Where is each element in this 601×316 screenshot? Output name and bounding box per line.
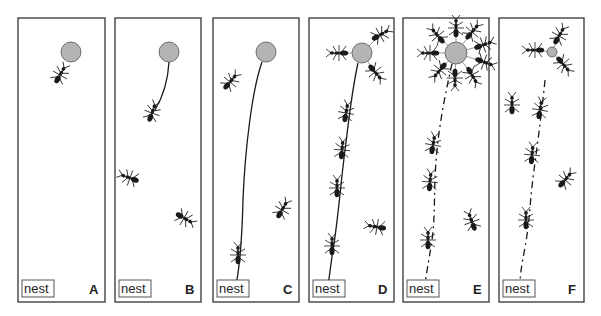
pheromone-trail [155, 62, 169, 110]
ant-icon [329, 175, 345, 197]
nest-label: nest [121, 281, 146, 296]
nest-label: nest [505, 281, 530, 296]
panel-letter: A [89, 282, 99, 297]
ant-icon [48, 60, 73, 87]
ant-icon [518, 207, 534, 229]
ant-icon [363, 60, 390, 87]
ant-icon [326, 45, 348, 61]
ant-icon [218, 67, 245, 94]
panel-e: nestE [403, 15, 499, 302]
panel-border [309, 18, 394, 302]
panel-b: nestB [115, 18, 201, 302]
panel-letter: B [185, 282, 194, 297]
ant-icon [460, 17, 487, 44]
ant-icon [553, 165, 580, 192]
ant-icon [504, 92, 520, 114]
ant-icon [337, 99, 357, 124]
nest-label: nest [24, 281, 49, 296]
panel-c: nestC [213, 18, 299, 302]
ant-icon [141, 98, 164, 124]
food-source [547, 47, 557, 57]
panel-border [115, 18, 201, 302]
ant-icon [270, 195, 295, 222]
pheromone-trail [520, 80, 545, 285]
food-source [256, 42, 276, 62]
panels-layer: nestAnestBnestCnestDnestEnestF [18, 15, 584, 302]
ant-icon [460, 207, 483, 233]
ant-icon [333, 136, 351, 160]
ant-icon [172, 206, 199, 231]
ant-icon [424, 131, 444, 156]
ant-icon [447, 69, 463, 91]
ant-icon [424, 21, 451, 48]
panel-letter: D [378, 282, 387, 297]
food-source [352, 43, 372, 63]
food-source [445, 42, 467, 64]
panel-d: nestD [309, 18, 395, 302]
nest-label: nest [219, 281, 244, 296]
nest-label: nest [409, 281, 434, 296]
nest-label: nest [315, 281, 340, 296]
ant-icon [421, 168, 439, 192]
panel-a: nestA [18, 18, 105, 302]
panel-letter: C [283, 282, 293, 297]
panel-letter: F [568, 282, 576, 297]
ant-icon [522, 42, 544, 58]
panel-f: nestF [499, 18, 584, 302]
ant-icon [472, 33, 498, 56]
ant-icon [363, 217, 388, 237]
panel-border [213, 18, 299, 302]
ant-icon [473, 51, 499, 74]
ant-icon [547, 21, 572, 48]
food-source [159, 42, 179, 62]
panel-letter: E [473, 282, 482, 297]
ant-trail-figure: nestAnestBnestCnestDnestEnestF [0, 0, 601, 316]
ant-icon [523, 141, 541, 165]
ant-icon [417, 45, 439, 61]
ant-icon [531, 96, 551, 121]
ant-icon [115, 166, 141, 189]
ant-icon [324, 233, 340, 255]
ant-icon [420, 227, 436, 249]
ant-icon [460, 63, 485, 90]
ant-icon [230, 242, 246, 264]
panel-border [18, 18, 105, 302]
panel-border [499, 18, 584, 302]
food-source [61, 42, 81, 62]
